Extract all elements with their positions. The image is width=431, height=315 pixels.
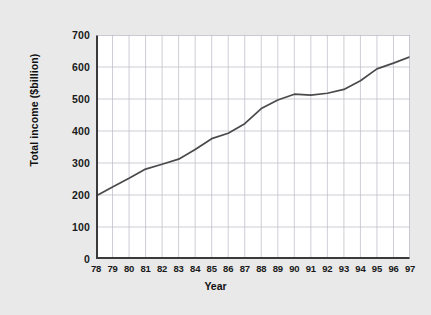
line-chart-svg xyxy=(96,35,410,259)
y-tick-label: 0 xyxy=(50,253,90,265)
x-tick-label: 97 xyxy=(399,263,421,274)
figure-canvas: 0100200300400500600700 78798081828384858… xyxy=(0,0,431,315)
y-tick-label: 500 xyxy=(50,93,90,105)
x-axis-title: Year xyxy=(16,280,415,292)
y-tick-label: 700 xyxy=(50,29,90,41)
data-series-line xyxy=(96,57,410,196)
y-tick-label: 100 xyxy=(50,221,90,233)
y-tick-label: 600 xyxy=(50,61,90,73)
y-tick-label: 300 xyxy=(50,157,90,169)
chart-figure: 0100200300400500600700 78798081828384858… xyxy=(16,8,415,307)
y-tick-label: 400 xyxy=(50,125,90,137)
y-tick-label: 200 xyxy=(50,189,90,201)
y-axis-title: Total income ($billion) xyxy=(28,30,40,190)
plot-area xyxy=(96,35,410,259)
